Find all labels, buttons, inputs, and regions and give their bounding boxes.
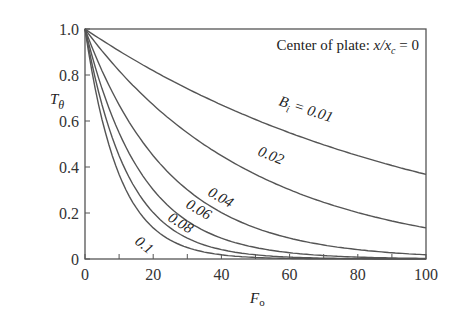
axes: 02040608010000.20.40.60.81.0TθFoCenter o… [50, 21, 438, 308]
x-tick-label: 40 [213, 266, 229, 283]
y-tick-label: 0.2 [59, 205, 79, 222]
y-tick-label: 1.0 [59, 21, 79, 38]
chart-title: Center of plate: x/xc = 0 [277, 37, 419, 56]
x-tick-label: 20 [145, 266, 161, 283]
chart: Bi = 0.010.020.040.060.080.1 02040608010… [0, 0, 456, 333]
series-line-0.08 [85, 29, 426, 259]
x-tick-label: 0 [81, 266, 89, 283]
series-line-0.06 [85, 29, 426, 258]
series-line-0.04 [85, 29, 426, 255]
x-tick-label: 80 [350, 266, 366, 283]
x-tick-label: 100 [414, 266, 438, 283]
y-tick-label: 0.8 [59, 67, 79, 84]
y-tick-label: 0 [71, 251, 79, 268]
series-label: 0.1 [132, 233, 157, 257]
series-label: 0.02 [256, 143, 287, 168]
plot-area: Bi = 0.010.020.040.060.080.1 [85, 29, 426, 259]
y-axis-label: Tθ [50, 91, 64, 112]
x-axis-label: Fo [249, 290, 265, 308]
y-tick-label: 0.6 [59, 113, 79, 130]
y-tick-label: 0.4 [59, 159, 79, 176]
plot-frame [85, 29, 426, 259]
series-line-0.02 [85, 29, 426, 228]
series-line-0.1 [85, 29, 426, 259]
series-label: Bi = 0.01 [276, 93, 335, 128]
x-tick-label: 60 [282, 266, 298, 283]
